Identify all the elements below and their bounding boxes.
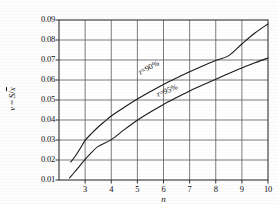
x-tick-label-5: 5	[127, 185, 147, 194]
y-tick-label-0.05: 0.05	[22, 95, 55, 104]
y-tick-label-0.08: 0.08	[22, 35, 55, 44]
y-axis-title: v = S/x	[7, 76, 17, 122]
y-tick-label-0.02: 0.02	[22, 155, 55, 164]
y-tick-label-0.03: 0.03	[22, 135, 55, 144]
figure-chart-v-vs-n: 0.010.020.030.040.050.060.070.080.09 345…	[0, 0, 279, 204]
x-tick-label-6: 6	[154, 185, 174, 194]
y-tick-label-0.04: 0.04	[22, 115, 55, 124]
x-axis-title: n	[154, 194, 174, 204]
x-tick-label-3: 3	[75, 185, 95, 194]
x-tick-label-9: 9	[232, 185, 252, 194]
y-axis-title-text: v = S/x	[7, 87, 17, 111]
y-tick-label-0.06: 0.06	[22, 75, 55, 84]
x-tick-label-4: 4	[101, 185, 121, 194]
y-tick-label-0.09: 0.09	[22, 15, 55, 24]
y-tick-label-0.01: 0.01	[22, 175, 55, 184]
x-tick-label-10: 10	[258, 185, 278, 194]
y-tick-label-0.07: 0.07	[22, 55, 55, 64]
x-tick-label-7: 7	[180, 185, 200, 194]
x-tick-label-8: 8	[206, 185, 226, 194]
